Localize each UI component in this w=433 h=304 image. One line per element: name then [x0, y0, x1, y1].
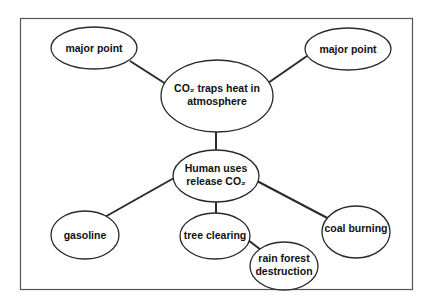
node-label-line2: destruction [255, 265, 312, 277]
node-label-line2: release CO₂ [186, 175, 246, 187]
node-human-uses: Human uses release CO₂ [173, 150, 259, 202]
node-rain-forest: rain forest destruction [250, 242, 318, 290]
node-label: major point [319, 43, 377, 55]
node-label: tree clearing [184, 229, 246, 241]
node-label-line1: Human uses [185, 162, 248, 174]
node-major-right: major point [305, 28, 391, 70]
node-gasoline: gasoline [51, 211, 119, 259]
node-label-line1: CO₂ traps heat in [174, 82, 260, 94]
node-label-line1: rain forest [258, 252, 310, 264]
node-coal-burning: coal burning [322, 206, 390, 258]
node-label-line2: atmosphere [187, 95, 247, 107]
node-tree-clearing: tree clearing [180, 213, 250, 259]
node-major-left: major point [51, 27, 137, 69]
node-label: major point [65, 42, 123, 54]
node-label: gasoline [64, 229, 107, 241]
node-central: CO₂ traps heat in atmosphere [161, 60, 273, 132]
node-label: coal burning [325, 222, 388, 234]
concept-map: major point major point CO₂ traps heat i… [0, 0, 433, 304]
